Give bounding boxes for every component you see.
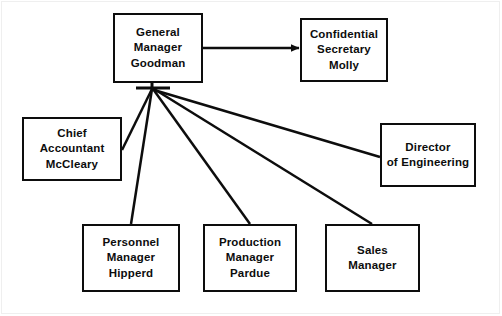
- box-label-line: Chief: [57, 126, 87, 142]
- box-label-line: Hipperd: [109, 266, 154, 282]
- box-label-line: of Engineering: [387, 155, 470, 171]
- box-sales-manager[interactable]: Sales Manager: [325, 224, 420, 292]
- box-label-line: Production: [219, 235, 281, 251]
- org-chart: General Manager Goodman Confidential Sec…: [0, 0, 502, 316]
- box-label-line: McCleary: [46, 157, 98, 173]
- box-label-line: Director: [405, 140, 450, 156]
- box-general-manager[interactable]: General Manager Goodman: [113, 13, 203, 83]
- box-label-line: Secretary: [317, 42, 371, 58]
- box-label-line: Molly: [329, 58, 359, 74]
- box-production-manager[interactable]: Production Manager Pardue: [203, 224, 297, 292]
- box-label-line: Confidential: [310, 27, 378, 43]
- box-label-line: Manager: [107, 250, 155, 266]
- box-label-line: General: [136, 25, 180, 41]
- box-director-of-engineering[interactable]: Director of Engineering: [380, 123, 476, 187]
- box-confidential-secretary[interactable]: Confidential Secretary Molly: [300, 18, 388, 82]
- box-label-line: Personnel: [103, 235, 160, 251]
- box-label-line: Goodman: [131, 56, 186, 72]
- box-label-line: Manager: [134, 40, 182, 56]
- box-label-line: Pardue: [230, 266, 270, 282]
- box-label-line: Manager: [226, 250, 274, 266]
- box-personnel-manager[interactable]: Personnel Manager Hipperd: [82, 224, 180, 292]
- box-label-line: Manager: [348, 258, 396, 274]
- box-label-line: Accountant: [40, 141, 105, 157]
- box-label-line: Sales: [357, 243, 388, 259]
- box-chief-accountant[interactable]: Chief Accountant McCleary: [22, 117, 122, 181]
